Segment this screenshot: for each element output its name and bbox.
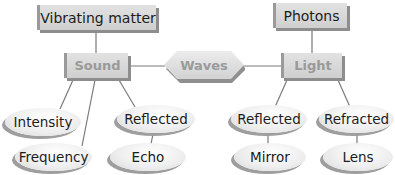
node-intensity: Intensity [5, 108, 81, 136]
concept-map-diagram: Vibrating matter Photons Sound Light Wav… [0, 0, 395, 175]
node-waves: Waves [163, 50, 245, 80]
edge-sound-reflected [119, 80, 135, 107]
node-light: Light [281, 53, 342, 78]
node-photons: Photons [273, 3, 347, 28]
edge-sound-intensity [60, 80, 73, 109]
edge-light-refracted [338, 80, 350, 107]
node-sound-reflected: Reflected [117, 105, 195, 133]
edge-light-reflected [275, 80, 287, 107]
node-echo: Echo [110, 143, 186, 171]
node-vibrating-matter: Vibrating matter [37, 5, 156, 30]
node-sound: Sound [64, 53, 128, 78]
waves-label: Waves [163, 50, 245, 80]
node-mirror: Mirror [234, 143, 306, 171]
edge-sound-frequency [82, 80, 95, 146]
node-frequency: Frequency [15, 143, 92, 171]
node-lens: Lens [323, 143, 393, 171]
node-refracted: Refracted [319, 105, 394, 133]
node-light-reflected: Reflected [231, 105, 307, 133]
